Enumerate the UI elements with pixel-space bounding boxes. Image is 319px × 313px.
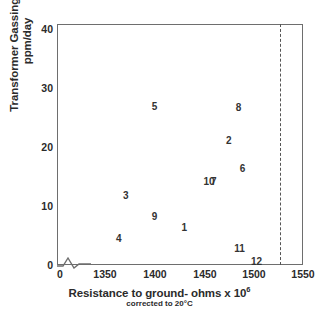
x-axis-subtitle: corrected to 20°C (0, 299, 319, 308)
x-tick-label: 1500 (242, 268, 265, 280)
data-point-label: 6 (240, 162, 246, 173)
data-point-label: 11 (234, 243, 245, 254)
y-tick-label: 30 (29, 82, 53, 94)
data-point-label: 8 (236, 101, 242, 112)
y-tick-label: 20 (29, 141, 53, 153)
y-axis-tick-labels: 010203040 (29, 0, 53, 313)
scatter-chart: Transformer Gassing Rate ppm/day 0102030… (0, 0, 319, 313)
data-point-label: 12 (251, 256, 262, 267)
data-point-label: 3 (123, 190, 129, 201)
y-axis-title-line1: Transformer Gassing Rate (8, 0, 20, 112)
plot-area (57, 24, 303, 265)
data-point-label: 2 (226, 134, 232, 145)
x-tick-label: 1400 (143, 268, 166, 280)
reference-line-annotation (280, 24, 281, 265)
x-axis-title: Resistance to ground- ohms x 106 (0, 285, 319, 299)
y-tick-label: 40 (29, 23, 53, 35)
x-tick-label: 0 (57, 268, 63, 280)
x-tick-label: 1350 (93, 268, 116, 280)
x-axis-title-text: Resistance to ground- ohms x 10 (69, 287, 247, 299)
data-point-label: 9 (152, 211, 158, 222)
axis-break-icon (57, 255, 91, 269)
x-tick-label: 1450 (193, 268, 216, 280)
data-point-label: 10 (203, 175, 214, 186)
x-axis-title-exponent: 6 (246, 285, 250, 294)
data-point-label: 5 (152, 100, 158, 111)
data-point-label: 1 (181, 221, 187, 232)
x-axis-tick-labels: 013501400145015001550 (0, 268, 319, 284)
data-point-label: 4 (116, 233, 122, 244)
x-tick-label: 1550 (291, 268, 314, 280)
y-tick-label: 10 (29, 200, 53, 212)
